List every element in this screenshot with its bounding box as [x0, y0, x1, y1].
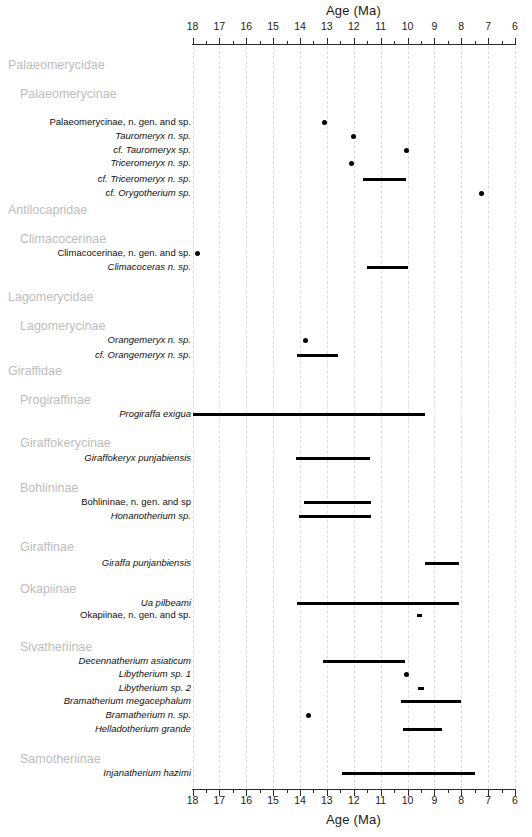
- group-label-okapiinae: Okapiinae: [20, 582, 76, 596]
- group-label-giraffidae: Giraffidae: [8, 364, 62, 378]
- group-label-lagomerycinae: Lagomerycinae: [20, 319, 105, 333]
- occurrence-point: [349, 161, 354, 166]
- axis-tick-6: [515, 38, 516, 45]
- taxon-row: Injanatherium hazimi: [0, 766, 532, 780]
- taxon-label: Triceromeryx n. sp.: [110, 156, 191, 170]
- group-row: Lagomerycinae: [0, 319, 532, 333]
- group-row: Climacocerinae: [0, 232, 532, 246]
- axis-tick-label-18: 18: [187, 20, 199, 32]
- group-row: Bohlininae: [0, 481, 532, 495]
- taxon-row: cf. Tauromeryx sp.: [0, 143, 532, 157]
- taxon-row: Honanotherium sp.: [0, 509, 532, 523]
- axis-line-top: [192, 44, 515, 45]
- axis-tick-label-12: 12: [348, 20, 360, 32]
- group-label-progiraffinae: Progiraffinae: [20, 393, 91, 407]
- taxon-label: Honanotherium sp.: [111, 509, 191, 523]
- occurrence-point: [404, 148, 409, 153]
- taxon-label: Tauromeryx n. sp.: [115, 129, 191, 143]
- group-label-climacocerinae: Climacocerinae: [20, 232, 106, 246]
- range-bar: [418, 687, 423, 690]
- range-bar: [425, 562, 459, 565]
- range-bar: [299, 515, 372, 518]
- axis-tick-label-10: 10: [402, 20, 414, 32]
- taxon-label: Bramatherium n. sp.: [105, 708, 191, 722]
- group-row: Giraffokerycinae: [0, 436, 532, 450]
- group-row: Lagomerycidae: [0, 290, 532, 304]
- range-chart-figure: Age (Ma) 1817161514131211109876 Palaeome…: [0, 0, 532, 837]
- axis-tick-label-6: 6: [512, 20, 518, 32]
- taxon-label: Libytherium sp. 1: [119, 667, 191, 681]
- range-bar: [403, 728, 442, 731]
- axis-title-top: Age (Ma): [192, 3, 515, 18]
- range-bar: [297, 602, 458, 605]
- taxon-row: Orangemeryx n. sp.: [0, 333, 532, 347]
- taxon-label: Decennatherium asiaticum: [79, 654, 191, 668]
- axis-line-bottom: [192, 789, 515, 790]
- taxon-row: cf. Orygotherium sp.: [0, 186, 532, 200]
- taxon-row: Helladotherium grande: [0, 722, 532, 736]
- taxon-label: Palaeomerycinae, n. gen. and sp.: [49, 115, 191, 129]
- taxon-row: Libytherium sp. 2: [0, 681, 532, 695]
- axis-tick-15: [273, 789, 274, 796]
- group-row: Okapiinae: [0, 582, 532, 596]
- range-bar: [304, 501, 371, 504]
- taxon-label: Helladotherium grande: [95, 722, 191, 736]
- taxon-label: cf. Orangemeryx n. sp.: [95, 348, 191, 362]
- taxon-label: Giraffa punjanbiensis: [102, 556, 191, 570]
- range-bar: [296, 457, 370, 460]
- axis-tick-11: [381, 789, 382, 796]
- taxon-row: Triceromeryx n. sp.: [0, 156, 532, 170]
- axis-tick-label-16: 16: [240, 20, 252, 32]
- axis-tick-label-14: 14: [294, 20, 306, 32]
- occurrence-point: [322, 120, 327, 125]
- range-bar: [417, 614, 422, 617]
- taxon-row: cf. Triceromeryx n. sp.: [0, 172, 532, 186]
- taxon-label: Bramatherium megacephalum: [64, 694, 191, 708]
- range-bar: [363, 178, 406, 181]
- taxon-row: Bramatherium megacephalum: [0, 694, 532, 708]
- taxon-row: Bohlininae, n. gen. and sp: [0, 495, 532, 509]
- occurrence-point: [195, 251, 200, 256]
- taxon-label: cf. Triceromeryx n. sp.: [98, 172, 191, 186]
- group-label-samotheriinae: Samotheriinae: [20, 752, 101, 766]
- range-bar: [367, 266, 407, 269]
- axis-tick-16: [246, 789, 247, 796]
- taxon-label: cf. Orygotherium sp.: [105, 186, 191, 200]
- group-row: Progiraffinae: [0, 393, 532, 407]
- taxon-row: Palaeomerycinae, n. gen. and sp.: [0, 115, 532, 129]
- axis-tick-10: [408, 789, 409, 796]
- group-label-palaeomerycidae: Palaeomerycidae: [8, 58, 105, 72]
- axis-title-bottom: Age (Ma): [192, 812, 515, 827]
- group-label-lagomerycidae: Lagomerycidae: [8, 290, 93, 304]
- group-label-giraffokerycinae: Giraffokerycinae: [20, 436, 111, 450]
- axis-tick-8: [461, 789, 462, 796]
- occurrence-point: [479, 191, 484, 196]
- group-row: Palaeomerycinae: [0, 87, 532, 101]
- taxon-label: Orangemeryx n. sp.: [108, 333, 191, 347]
- range-bar: [323, 660, 405, 663]
- taxon-row: Okapiinae, n. gen. and sp.: [0, 608, 532, 622]
- axis-tick-18: [193, 789, 194, 796]
- group-row: Antilocapridae: [0, 203, 532, 217]
- taxon-row: Libytherium sp. 1: [0, 667, 532, 681]
- taxon-label: Okapiinae, n. gen. and sp.: [80, 608, 191, 622]
- axis-tick-label-8: 8: [458, 20, 464, 32]
- taxon-row: Tauromeryx n. sp.: [0, 129, 532, 143]
- taxon-label: Libytherium sp. 2: [119, 681, 191, 695]
- taxon-row: Climacoceras n. sp.: [0, 260, 532, 274]
- axis-tick-label-13: 13: [321, 20, 333, 32]
- group-label-palaeomerycinae: Palaeomerycinae: [20, 87, 117, 101]
- taxon-label: cf. Tauromeryx sp.: [113, 143, 191, 157]
- group-row: Giraffinae: [0, 540, 532, 554]
- axis-tick-label-9: 9: [431, 20, 437, 32]
- taxon-row: Progiraffa exigua: [0, 407, 532, 421]
- axis-tick-17: [219, 789, 220, 796]
- range-bar: [342, 772, 475, 775]
- taxon-label: Giraffokeryx punjabiensis: [84, 451, 191, 465]
- taxon-row: Giraffokeryx punjabiensis: [0, 451, 532, 465]
- taxon-row: cf. Orangemeryx n. sp.: [0, 348, 532, 362]
- group-label-sivatheriinae: Sivatheriinae: [20, 640, 92, 654]
- taxon-label: Climacocerinae, n. gen. and sp.: [57, 246, 191, 260]
- axis-tick-14: [300, 789, 301, 796]
- taxon-row: Giraffa punjanbiensis: [0, 556, 532, 570]
